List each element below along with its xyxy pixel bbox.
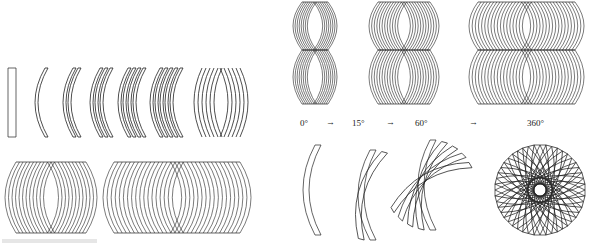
diagram-canvas (0, 0, 589, 245)
rotation-label-60: 60° (415, 118, 428, 128)
arrow-icon: → (326, 117, 335, 127)
rotation-label-15: 15° (352, 118, 365, 128)
rotation-label-360: 360° (527, 118, 544, 128)
figure-caption (2, 239, 97, 243)
arrow-icon: → (386, 117, 395, 127)
arrow-icon: → (469, 117, 478, 127)
rotation-label-0: 0° (300, 118, 308, 128)
